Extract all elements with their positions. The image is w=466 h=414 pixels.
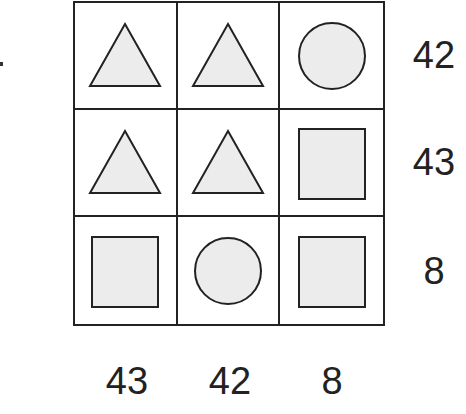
triangle-icon: [188, 123, 268, 203]
triangle-icon: [85, 16, 165, 96]
square-icon: [292, 123, 372, 203]
triangle-icon: [188, 16, 268, 96]
column-sum-2: 42: [178, 360, 282, 403]
grid-cell-r3c1: [75, 217, 178, 324]
square-icon: [85, 231, 165, 311]
row-sum-1: 42: [404, 34, 464, 77]
shape-grid: [73, 1, 385, 326]
circle-icon: [188, 231, 268, 311]
grid-cell-r1c3: [280, 3, 383, 110]
grid-cell-r2c3: [280, 110, 383, 217]
stray-mark: [0, 62, 3, 66]
grid-cell-r1c2: [178, 3, 281, 110]
grid-cell-r3c2: [178, 217, 281, 324]
row-sum-3: 8: [404, 250, 464, 293]
grid-cell-r2c2: [178, 110, 281, 217]
column-sum-3: 8: [280, 360, 384, 403]
grid-cell-r3c3: [280, 217, 383, 324]
row-sum-2: 43: [404, 141, 464, 184]
grid-cell-r2c1: [75, 110, 178, 217]
triangle-icon: [85, 123, 165, 203]
square-icon: [292, 231, 372, 311]
grid-cell-r1c1: [75, 3, 178, 110]
circle-icon: [292, 16, 372, 96]
column-sum-1: 43: [75, 360, 179, 403]
